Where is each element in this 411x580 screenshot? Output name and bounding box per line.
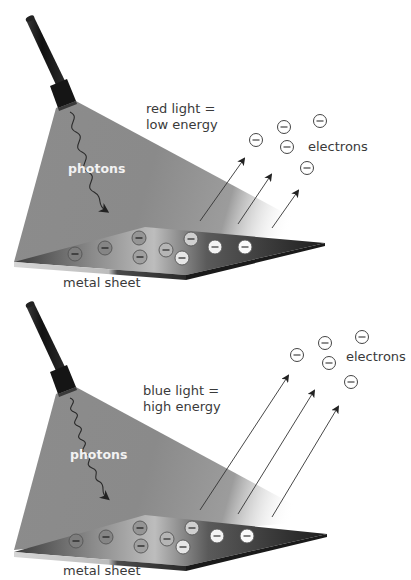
electron-icon (281, 141, 294, 154)
flashlight-icon (25, 300, 77, 397)
electron-icon (133, 521, 147, 535)
electron-icon (356, 331, 369, 344)
light-energy-label-line1: red light = (146, 101, 215, 117)
electron-icon (184, 232, 198, 246)
electron-icon (250, 134, 263, 147)
electron-icon (210, 529, 224, 543)
electron-icon (301, 162, 314, 175)
electron-icon (345, 376, 358, 389)
electron-icon (160, 532, 174, 546)
electron-icon (69, 534, 83, 548)
photons-label: photons (68, 161, 125, 177)
electrons-label: electrons (308, 139, 368, 155)
photons-label: photons (70, 447, 127, 463)
light-energy-label-line1: blue light = (143, 383, 219, 399)
electron-icon (323, 357, 336, 370)
panel-blue-light: photons blue light = high energy electro… (0, 290, 411, 580)
electron-icon (98, 241, 112, 255)
electron-icon (68, 247, 82, 261)
electron-icon (291, 349, 304, 362)
electron-icon (132, 231, 146, 245)
panel-red-light: photons red light = low energy electrons… (0, 0, 411, 290)
electron-icon (319, 337, 332, 350)
metal-sheet-label: metal sheet (63, 275, 141, 291)
electron-icon (133, 250, 147, 264)
electron-icon (278, 121, 291, 134)
electron-icon (240, 529, 254, 543)
flashlight-icon (25, 14, 77, 111)
metal-sheet-label: metal sheet (63, 563, 141, 579)
electron-icon (238, 240, 252, 254)
light-energy-label-line2: low energy (146, 117, 218, 133)
electron-icon (159, 243, 173, 257)
electron-icon (314, 115, 327, 128)
electron-icon (134, 539, 148, 553)
electrons-label: electrons (346, 349, 406, 365)
electron-icon (208, 240, 222, 254)
electron-icon (185, 521, 199, 535)
electron-icon (175, 251, 189, 265)
electron-icon (99, 530, 113, 544)
electron-icon (176, 540, 190, 554)
light-energy-label-line2: high energy (143, 399, 221, 415)
blue-light-illustration (0, 290, 411, 580)
